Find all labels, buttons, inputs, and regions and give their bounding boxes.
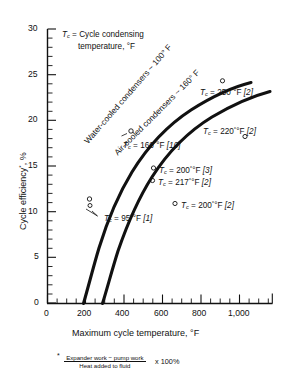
footnote-denominator: Heat added to fluid xyxy=(64,361,145,369)
footnote-fraction: Expander work − pump work Heat added to … xyxy=(64,354,145,369)
y-axis-title: Cycle efficiency*, % xyxy=(18,152,28,230)
x-tick-label-200: 200 xyxy=(77,308,91,318)
annotation-217F-unit: °F xyxy=(191,178,199,187)
marker-95F xyxy=(87,197,91,201)
annotation-200F-3-value: 200 xyxy=(176,166,190,175)
annotation-95F-unit: °F xyxy=(133,214,141,223)
x-tick-label-1000: 1,000 xyxy=(228,308,250,318)
marker-200F-3 xyxy=(151,166,155,170)
x-axis-title: Maximum cycle temperature, °F xyxy=(72,328,199,338)
annotation-250F-value: 250 xyxy=(217,88,231,97)
annotation-166F-ref: [10] xyxy=(167,141,181,150)
marker-200F-2 xyxy=(173,201,177,205)
annotation-250F-ref: [2] xyxy=(244,88,253,97)
annotation-220F-ref: [2] xyxy=(247,127,256,136)
x-tick-label-600: 600 xyxy=(154,308,168,318)
annotation-95F-value: 95 xyxy=(121,214,130,223)
annotation-250F: Tc = 250°°F [2] xyxy=(200,85,253,99)
marker-250F xyxy=(220,79,224,83)
marker-95F-b xyxy=(88,204,92,208)
annotation-200F-2-ref: [2] xyxy=(225,201,234,210)
y-axis-title-star: * xyxy=(18,165,24,167)
annotation-217F: Tc = 217°°F [2] xyxy=(158,175,211,189)
annotation-220F-value: 220 xyxy=(220,127,234,136)
y-tick-label-25: 25 xyxy=(28,69,38,79)
annotation-166F-unit: °F xyxy=(156,141,164,150)
annotation-200F-2: Tc = 200°°F [2] xyxy=(181,198,234,212)
annotation-166F: Tc = 166°°F [10] xyxy=(123,138,180,152)
y-tick-label-0: 0 xyxy=(34,297,39,307)
annotation-217F-value: 217 xyxy=(175,178,189,187)
annotation-220F: Tc = 220°°F [2] xyxy=(203,124,256,138)
leader-95F xyxy=(86,209,98,216)
annotation-220F-unit: °F xyxy=(236,127,244,136)
footnote-multiplier: x 100% xyxy=(150,357,179,366)
y-axis-title-units: , % xyxy=(18,152,28,165)
annotation-200F-2-unit: °F xyxy=(214,201,222,210)
footnote: * Expander work − pump work Heat added t… xyxy=(57,352,179,370)
y-tick-label-15: 15 xyxy=(28,160,38,170)
y-tick-label-5: 5 xyxy=(34,251,39,261)
annotation-250F-unit: °F xyxy=(233,88,241,97)
tc-definition-note: Tc = Cycle condensing xyxy=(62,30,144,41)
annotation-200F-2-value: 200 xyxy=(198,201,212,210)
x-tick-label-800: 800 xyxy=(192,308,206,318)
footnote-numerator: Expander work − pump work xyxy=(64,354,145,361)
annotation-95F: Tc = 95°°F [1] xyxy=(104,211,152,225)
tc-definition-line2: temperature, °F xyxy=(78,42,135,51)
y-tick-label-20: 20 xyxy=(28,114,38,124)
tc-definition-line1: = Cycle condensing xyxy=(72,30,144,39)
y-axis-major-ticks xyxy=(48,29,57,303)
annotation-217F-ref: [2] xyxy=(202,178,211,187)
footnote-star: * xyxy=(57,352,60,359)
y-axis-title-text: Cycle efficiency xyxy=(18,168,28,230)
y-tick-label-10: 10 xyxy=(28,206,38,216)
tc-subscript: c xyxy=(67,33,70,39)
annotation-200F-3-ref: [3] xyxy=(203,166,212,175)
annotation-166F-value: 166 xyxy=(140,141,154,150)
annotation-200F-3-unit: °F xyxy=(192,166,200,175)
annotation-95F-ref: [1] xyxy=(143,214,152,223)
y-tick-label-30: 30 xyxy=(28,23,38,33)
tc-definition-line2-wrap: temperature, °F xyxy=(78,42,135,52)
chart-figure: 30 25 20 15 10 5 0 0 200 400 600 800 1,0… xyxy=(0,0,294,387)
x-tick-label-400: 400 xyxy=(115,308,129,318)
x-tick-label-0: 0 xyxy=(44,308,49,318)
